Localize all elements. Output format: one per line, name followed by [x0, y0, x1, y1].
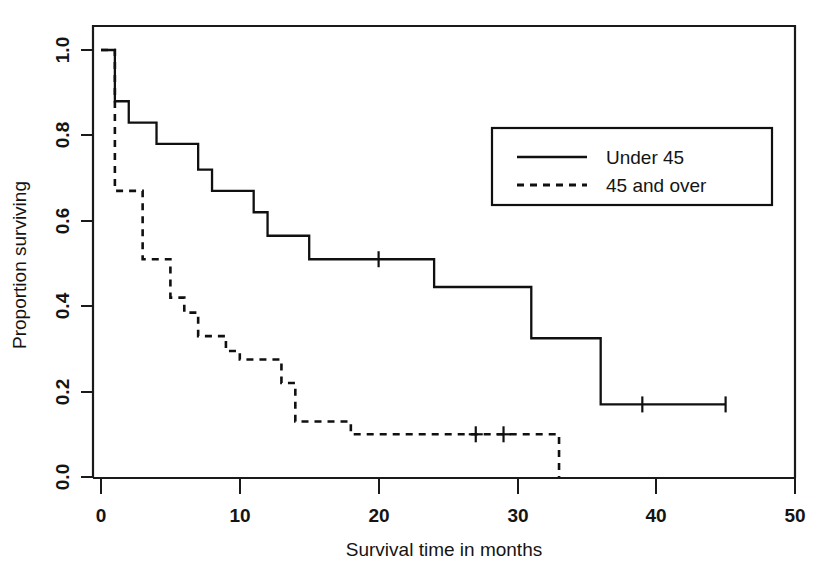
legend-label-under-45: Under 45	[606, 147, 684, 168]
x-tick-label-40: 40	[645, 505, 666, 526]
x-tick-label-50: 50	[784, 505, 805, 526]
y-tick-label-0.0: 0.0	[52, 464, 73, 490]
x-axis-title: Survival time in months	[346, 539, 542, 560]
chart-legend: Under 45 45 and over	[492, 128, 772, 205]
y-tick-label-1.0: 1.0	[52, 37, 73, 63]
legend-label-45-and-over: 45 and over	[606, 175, 707, 196]
y-tick-label-0.2: 0.2	[52, 379, 73, 405]
x-tick-label-30: 30	[507, 505, 528, 526]
x-tick-label-10: 10	[229, 505, 250, 526]
chart-canvas: 1.0 0.8 0.6 0.4 0.2 0.0 Proportion survi…	[0, 0, 824, 581]
x-tick-label-0: 0	[96, 505, 107, 526]
y-axis-title: Proportion surviving	[9, 181, 30, 349]
chart-background	[0, 0, 824, 581]
survival-chart-figure: 1.0 0.8 0.6 0.4 0.2 0.0 Proportion survi…	[0, 0, 824, 581]
y-tick-label-0.4: 0.4	[52, 292, 73, 319]
x-tick-label-20: 20	[368, 505, 389, 526]
y-tick-label-0.6: 0.6	[52, 208, 73, 234]
y-tick-label-0.8: 0.8	[52, 122, 73, 148]
